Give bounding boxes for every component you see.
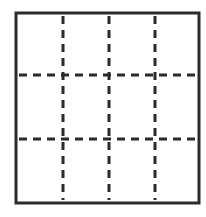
grid-drawing [0,0,206,217]
grid-diagram [0,0,206,217]
vertical-dashed-lines [63,16,155,200]
